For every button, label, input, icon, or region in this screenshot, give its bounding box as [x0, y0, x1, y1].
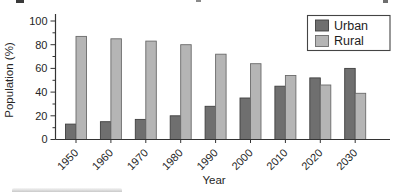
- y-tick-label-0: 0: [41, 133, 47, 145]
- bar-urban-2020: [310, 78, 321, 140]
- bar-rural-1980: [181, 45, 192, 140]
- y-tick-label-100: 100: [29, 15, 47, 27]
- legend-label-rural: Rural: [334, 34, 364, 48]
- y-tick-label-60: 60: [35, 62, 47, 74]
- bar-urban-1960: [100, 122, 111, 140]
- x-axis-title: Year: [202, 174, 225, 186]
- bar-rural-2020: [320, 85, 331, 140]
- x-tick-label-1950: 1950: [55, 146, 81, 172]
- y-tick-label-40: 40: [35, 86, 47, 98]
- x-tick-label-2030: 2030: [334, 146, 360, 172]
- bar-rural-2030: [355, 93, 366, 139]
- legend-swatch-urban: [316, 20, 329, 31]
- x-tick-label-2010: 2010: [264, 146, 290, 172]
- bar-rural-2000: [251, 64, 262, 140]
- x-tick-label-1990: 1990: [194, 146, 220, 172]
- bar-rural-2010: [285, 76, 296, 140]
- legend-swatch-rural: [316, 36, 329, 47]
- bar-urban-2000: [240, 98, 251, 140]
- figure-screenshot: 0204060801001950196019701980199020002010…: [0, 0, 394, 192]
- x-tick-label-1960: 1960: [90, 146, 116, 172]
- bar-rural-1960: [111, 39, 122, 140]
- bar-urban-1980: [170, 116, 181, 140]
- bar-urban-2010: [275, 86, 286, 139]
- cropped-element-bottom-edge: [12, 188, 122, 192]
- bar-rural-1990: [216, 54, 227, 139]
- population-bar-chart: 0204060801001950196019701980199020002010…: [0, 0, 394, 192]
- bar-urban-2030: [345, 68, 356, 139]
- bar-urban-1970: [135, 119, 146, 139]
- x-tick-label-2000: 2000: [229, 146, 255, 172]
- y-tick-label-80: 80: [35, 39, 47, 51]
- y-axis-title: Population (%): [3, 42, 15, 118]
- x-tick-label-1980: 1980: [159, 146, 185, 172]
- x-tick-label-2020: 2020: [299, 146, 325, 172]
- bar-rural-1950: [76, 36, 87, 139]
- bar-urban-1950: [66, 124, 77, 139]
- y-tick-label-20: 20: [35, 110, 47, 122]
- bar-urban-1990: [205, 106, 216, 139]
- legend-label-urban: Urban: [334, 19, 368, 33]
- bar-rural-1970: [146, 41, 157, 139]
- x-tick-label-1970: 1970: [124, 146, 150, 172]
